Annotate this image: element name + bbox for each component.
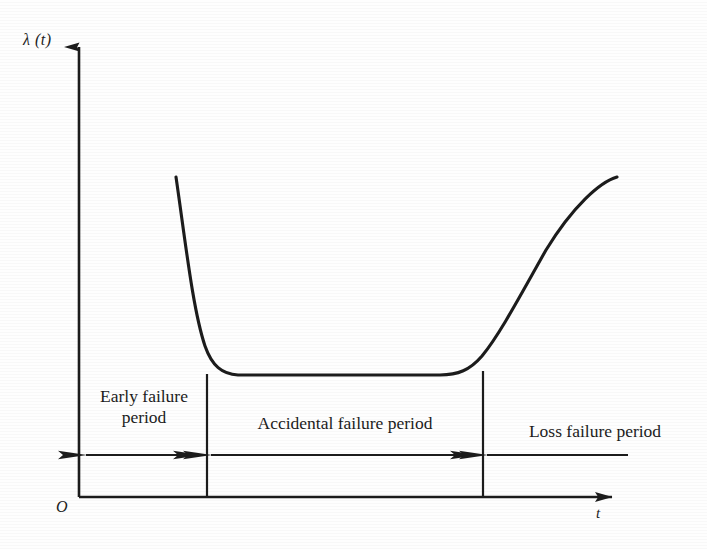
bathtub-curve-drawing bbox=[0, 0, 707, 549]
y-axis-label: λ (t) bbox=[23, 31, 52, 50]
failure-rate-curve bbox=[176, 177, 617, 375]
figure-canvas: λ (t) t O Early failure period Accidenta… bbox=[0, 0, 707, 549]
x-axis-label: t bbox=[596, 505, 600, 523]
region-label-accidental-failure: Accidental failure period bbox=[212, 413, 478, 434]
origin-label: O bbox=[56, 498, 68, 517]
region-label-loss-failure: Loss failure period bbox=[500, 421, 690, 442]
region-label-early-failure-line2: period bbox=[122, 407, 167, 427]
region-label-early-failure-line1: Early failure bbox=[100, 386, 188, 406]
region-label-early-failure: Early failure period bbox=[83, 386, 205, 427]
